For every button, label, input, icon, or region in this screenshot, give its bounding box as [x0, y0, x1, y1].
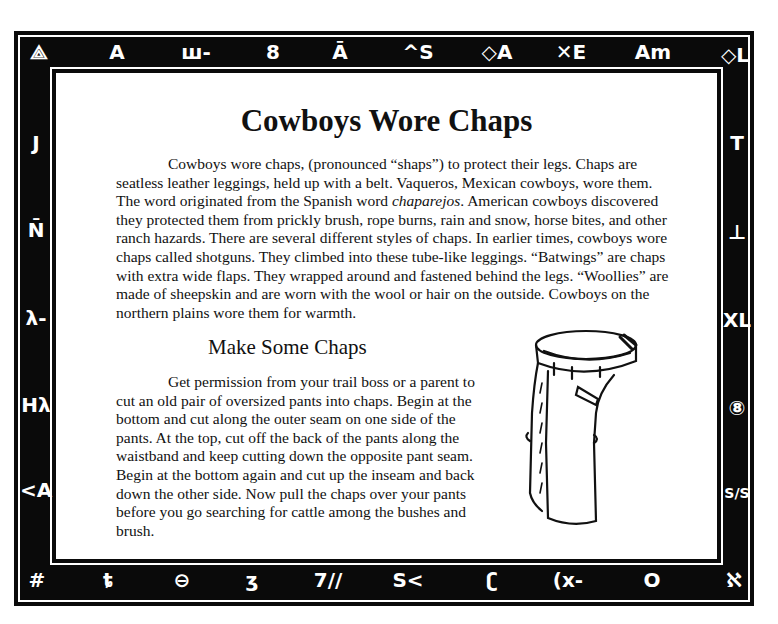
brand-icon-less-a: <A: [20, 480, 52, 500]
brand-icon-lambda-dash: λ-: [26, 308, 47, 328]
brand-icon-t: T: [730, 133, 744, 153]
intro-italic-word: chaparejos: [392, 192, 460, 209]
intro-text-part2: . American cowboys discovered they prote…: [116, 192, 668, 321]
brand-icon-h-lambda: Hλ: [21, 395, 50, 415]
content-panel: Cowboys Wore Chaps Cowboys wore chaps, (…: [56, 73, 717, 559]
brand-icon-t-curl: ȶ: [103, 570, 113, 590]
brand-icon-w-dash: ш-: [181, 42, 211, 62]
brand-icon-paren-x: (x-: [553, 570, 583, 590]
brand-icon-roof-n: N̄: [28, 220, 45, 240]
brand-icon-circle-bar: ⊖: [174, 570, 191, 590]
section-subheading: Make Some Chaps: [208, 335, 367, 360]
brand-icon-s-over-s: S/S: [724, 486, 749, 500]
brand-icon-circled-eight: ⑧: [729, 398, 746, 418]
brand-icon-xl: XL: [723, 310, 751, 330]
brand-icon-seven-curl: ʒ: [246, 570, 259, 590]
brand-icon-seven-slash: 7//: [314, 570, 343, 590]
instructions-text: Get permission from your trail boss or a…: [116, 373, 475, 539]
brand-icon-up-tack: ⊥: [728, 222, 746, 242]
chaps-illustration: [524, 323, 644, 528]
brand-icon-hash: #: [29, 570, 46, 590]
brand-icon-diamond-l: ◇L: [721, 45, 749, 65]
page-title: Cowboys Wore Chaps: [56, 103, 717, 139]
brand-icon-ampersand: ℵ: [726, 570, 742, 590]
brand-icon-diamond-a: ◇A: [482, 42, 513, 62]
brand-icon-xe: ✕E: [556, 42, 586, 62]
brand-icon-loop-eight: 8: [266, 42, 280, 62]
brand-icon-boxed-a: Ā: [332, 42, 347, 62]
intro-paragraph: Cowboys wore chaps, (pronounced “shaps”)…: [116, 155, 676, 322]
brand-icon-j: J: [32, 133, 39, 153]
brand-icon-roof-s: ^S: [402, 42, 433, 62]
brand-icon-oval: O: [643, 570, 660, 590]
brand-icon-triangle-x: ⟁: [30, 42, 48, 62]
instructions-paragraph: Get permission from your trail boss or a…: [116, 373, 476, 540]
brand-icon-s-arrow: S<: [392, 570, 423, 590]
brand-icon-am: Am: [635, 42, 671, 62]
brand-icon-c-hook: ʗ: [486, 570, 497, 590]
brand-icon-a-bar: A: [109, 42, 124, 62]
